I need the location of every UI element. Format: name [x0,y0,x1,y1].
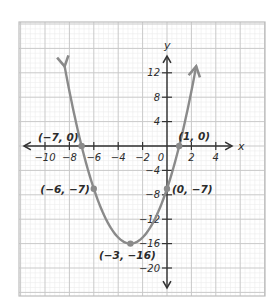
point-label: (−6, −7) [40,183,89,195]
x-axis-label: x [237,140,245,153]
point-marker [78,143,84,149]
y-tick-label: 12 [147,67,160,78]
x-tick-label: 2 [188,152,194,163]
y-tick-label: 4 [154,116,160,127]
x-tick-label: −10 [34,152,55,163]
point-label: (−7, 0) [38,131,79,143]
x-tick-label: −8 [62,152,77,163]
y-axis-label: y [163,39,171,52]
x-tick-label: −6 [86,152,101,163]
y-tick-label: −20 [139,263,160,274]
point-marker [164,186,170,192]
point-marker [127,240,133,246]
point-label: (0, −7) [172,183,213,195]
parabola-graph: −10−8−6−4−2024 1284−4−8−12−16−20 x y (−7… [0,0,272,302]
y-tick-label: −4 [145,165,160,176]
y-tick-label: 8 [154,92,160,103]
x-tick-label: −2 [135,152,150,163]
point-label: (−3, −16) [99,249,156,261]
x-tick-label: 4 [213,152,219,163]
x-tick-label: 0 [158,152,164,163]
x-tick-label: −4 [111,152,126,163]
y-tick-label: −8 [145,189,160,200]
point-marker [176,143,182,149]
point-marker [91,186,97,192]
point-label: (1, 0) [178,130,210,142]
y-tick-label: −16 [139,238,160,249]
